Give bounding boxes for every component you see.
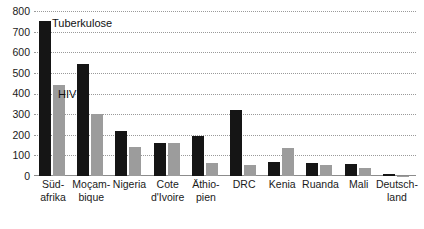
bar-group-drc xyxy=(225,11,263,176)
bar-group-deutschland xyxy=(378,11,416,176)
bar-tuberkulose-nigeria xyxy=(115,131,127,176)
bar-group-mali xyxy=(340,11,378,176)
bar-tuberkulose-athiopien xyxy=(192,136,204,176)
y-tick-label-800: 800 xyxy=(0,6,30,16)
x-cat-label-cote-divoire: Cote d'Ivoire xyxy=(147,178,189,203)
y-tick-label-0: 0 xyxy=(0,171,30,181)
bar-group-cote-divoire xyxy=(149,11,187,176)
bar-hiv-cote-divoire xyxy=(168,143,180,176)
bar-hiv-drc xyxy=(244,165,256,176)
bar-hiv-mocambique xyxy=(91,114,103,176)
bar-hiv-ruanda xyxy=(320,165,332,176)
bar-group-nigeria xyxy=(110,11,148,176)
x-cat-label-mali: Mali xyxy=(340,178,378,191)
x-cat-label-drc: DRC xyxy=(225,178,263,191)
bar-hiv-athiopien xyxy=(206,163,218,176)
bar-tuberkulose-cote-divoire xyxy=(154,143,166,176)
y-tick-label-400: 400 xyxy=(0,88,30,98)
bar-group-ruanda xyxy=(301,11,339,176)
series-label-tuberkulose: Tuberkulose xyxy=(52,17,112,29)
x-cat-label-athiopien: Äthio- pien xyxy=(187,178,225,203)
y-tick-label-600: 600 xyxy=(0,47,30,57)
bar-tuberkulose-kenia xyxy=(268,162,280,176)
bar-tuberkulose-ruanda xyxy=(306,163,318,176)
x-cat-label-mocambique: Moçam- bique xyxy=(72,178,110,203)
bar-tuberkulose-sudafrika xyxy=(39,21,51,176)
y-tick-label-700: 700 xyxy=(0,27,30,37)
bar-tuberkulose-mocambique xyxy=(77,64,89,176)
y-tick-label-200: 200 xyxy=(0,130,30,140)
x-cat-label-kenia: Kenia xyxy=(263,178,301,191)
bar-hiv-kenia xyxy=(282,148,294,176)
x-cat-label-ruanda: Ruanda xyxy=(301,178,339,191)
x-axis: Süd- afrika Moçam- bique Nigeria Cote d'… xyxy=(34,178,416,228)
y-tick-label-500: 500 xyxy=(0,68,30,78)
x-cat-label-sudafrika: Süd- afrika xyxy=(34,178,72,203)
y-tick-label-300: 300 xyxy=(0,109,30,119)
bar-hiv-mali xyxy=(359,168,371,176)
bar-tuberkulose-drc xyxy=(230,110,242,176)
bar-tuberkulose-deutschland xyxy=(383,174,395,176)
x-cat-label-deutschland: Deutsch- land xyxy=(376,178,418,203)
bar-group-kenia xyxy=(263,11,301,176)
bar-group-mocambique xyxy=(72,11,110,176)
bar-group-athiopien xyxy=(187,11,225,176)
series-label-hiv: HIV xyxy=(58,88,76,100)
bars-layer xyxy=(34,11,416,176)
bar-tuberkulose-mali xyxy=(345,164,357,176)
y-tick-label-100: 100 xyxy=(0,150,30,160)
bar-hiv-nigeria xyxy=(129,147,141,176)
y-axis: 800 700 600 500 400 300 200 100 0 xyxy=(0,0,30,229)
x-cat-label-nigeria: Nigeria xyxy=(110,178,148,191)
bar-chart: 800 700 600 500 400 300 200 100 0 xyxy=(0,0,424,229)
